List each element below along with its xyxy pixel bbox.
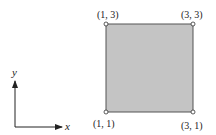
corner-point-3-1 [191, 110, 195, 114]
shaded-square [106, 24, 193, 112]
corner-label-3-3: (3, 3) [181, 9, 203, 21]
corner-point-1-3 [104, 22, 108, 26]
corner-label-3-1: (3, 1) [181, 120, 203, 132]
corner-label-1-3: (1, 3) [97, 9, 119, 21]
diagram-canvas: (1, 3) (3, 3) (1, 1) (3, 1) y x [0, 0, 216, 135]
corner-point-1-1 [104, 110, 108, 114]
y-axis-label: y [11, 66, 17, 78]
corner-point-3-3 [191, 22, 195, 26]
x-axis-label: x [64, 120, 70, 132]
corner-label-1-1: (1, 1) [93, 118, 115, 130]
